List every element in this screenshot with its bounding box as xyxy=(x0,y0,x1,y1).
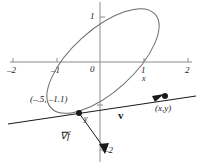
moving-point-label: (x,y) xyxy=(155,104,171,113)
x-tick-label-neg1: –1 xyxy=(51,66,60,75)
tangency-point-marker xyxy=(76,110,82,116)
x-tick-label-zero: 0 xyxy=(90,65,95,74)
gradient-tangent-plot: –2 –1 0 1 2 1 –2 x y (–.5, –1.1) (x,y) ∇… xyxy=(0,0,200,166)
gradient-label: ∇f xyxy=(60,131,70,141)
x-tick-label-pos2: 2 xyxy=(185,66,190,75)
y-tick-label-pos1: 1 xyxy=(90,12,95,21)
x-tick-label-neg2: –2 xyxy=(7,66,16,75)
plot-canvas xyxy=(0,0,200,166)
tangency-point-label: (–.5, –1.1) xyxy=(30,95,68,104)
x-axis-label: x xyxy=(142,75,146,83)
moving-point-marker xyxy=(162,93,168,99)
tangent-vector-label: v xyxy=(118,110,124,121)
y-tick-label-neg2: –2 xyxy=(104,146,113,155)
y-axis-label: y xyxy=(84,115,88,123)
